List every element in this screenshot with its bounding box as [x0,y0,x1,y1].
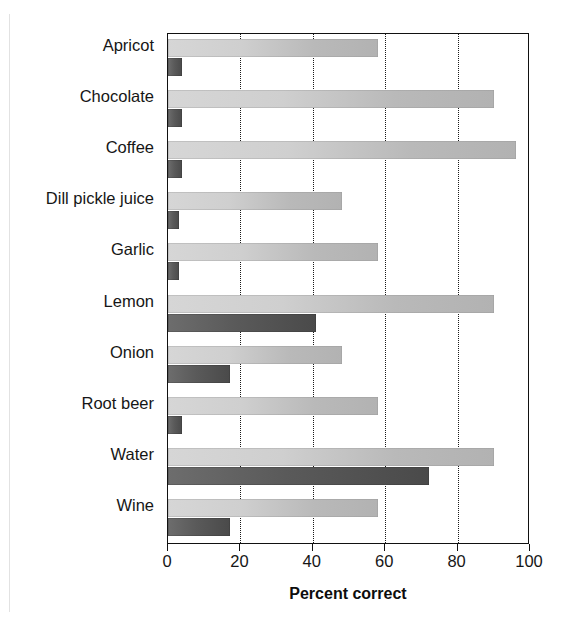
bar-light-bar-coffee [168,141,516,159]
bar-light-bar-dill-pickle-juice [168,192,342,210]
bar-light-bar-chocolate [168,90,494,108]
x-tick [457,544,458,551]
bar-dark-bar-root-beer [168,416,182,434]
bar-dark-bar-onion [168,365,230,383]
bar-dark-bar-garlic [168,262,179,280]
bar-dark-bar-chocolate [168,109,182,127]
bar-dark-bar-dill-pickle-juice [168,211,179,229]
x-tick-label: 60 [375,552,393,571]
x-tick-label: 80 [447,552,465,571]
y-label-garlic: Garlic [111,240,154,259]
y-label-wine: Wine [116,496,154,515]
bar-light-bar-onion [168,346,342,364]
y-label-onion: Onion [110,343,154,362]
bar-dark-bar-wine [168,518,230,536]
y-label-root-beer: Root beer [82,394,154,413]
bar-light-bar-water [168,448,494,466]
y-label-apricot: Apricot [103,36,154,55]
bar-light-bar-lemon [168,295,494,313]
bar-dark-bar-apricot [168,58,182,76]
bar-light-bar-wine [168,499,378,517]
y-label-coffee: Coffee [106,138,154,157]
y-label-dill-pickle-juice: Dill pickle juice [46,189,154,208]
y-label-lemon: Lemon [104,292,154,311]
x-tick [312,544,313,551]
bar-light-bar-root-beer [168,397,378,415]
bar-dark-bar-coffee [168,160,182,178]
y-label-chocolate: Chocolate [80,87,154,106]
cropped-title [0,0,569,12]
bar-light-bar-garlic [168,243,378,261]
x-tick-label: 40 [303,552,321,571]
y-label-water: Water [111,445,154,464]
figure-canvas: ApricotChocolateCoffeeDill pickle juiceG… [0,0,569,625]
gridline [458,34,459,543]
bar-dark-bar-lemon [168,314,316,332]
plot-inner [168,34,528,543]
y-axis-labels: ApricotChocolateCoffeeDill pickle juiceG… [0,33,160,544]
x-tick-label: 0 [162,552,171,571]
x-tick [384,544,385,551]
bar-dark-bar-water [168,467,429,485]
bar-light-bar-apricot [168,39,378,57]
x-tick-label: 100 [515,552,543,571]
x-axis-title: Percent correct [167,585,529,603]
x-tick [167,544,168,551]
x-tick [239,544,240,551]
plot-area [167,33,529,544]
x-tick-label: 20 [230,552,248,571]
x-tick [529,544,530,551]
